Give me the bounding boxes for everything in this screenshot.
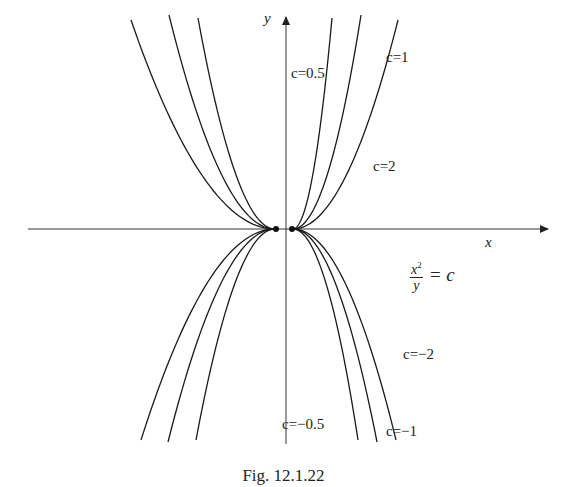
y-axis-label: y <box>264 10 271 27</box>
eq-rhs: = c <box>429 264 455 286</box>
annotation-c-minus-0-5: c=−0.5 <box>282 416 324 433</box>
vertex-left-dot <box>273 226 279 232</box>
equation: x2 y = c <box>410 258 455 293</box>
parabola-curve <box>168 229 275 442</box>
eq-exponent: 2 <box>417 260 422 270</box>
x-axis-label: x <box>485 234 492 251</box>
annotation-c-2: c=2 <box>373 158 396 175</box>
annotation-c-minus-1: c=−1 <box>386 423 417 440</box>
parabola-curve <box>196 229 275 440</box>
parabola-curve <box>131 20 275 229</box>
annotation-c-minus-2: c=−2 <box>403 346 434 363</box>
parabola-curve <box>293 20 398 229</box>
eq-denominator: y <box>413 278 419 293</box>
parabola-curve <box>141 229 275 440</box>
parabola-curve <box>293 229 396 440</box>
chart-canvas <box>0 0 567 487</box>
vertex-right-dot <box>289 226 295 232</box>
annotation-c-1: c=1 <box>386 49 409 66</box>
annotation-c-0-5: c=0.5 <box>291 65 325 82</box>
parabola-curve <box>293 18 332 229</box>
parabola-curve <box>293 15 361 229</box>
figure-caption: Fig. 12.1.22 <box>0 466 567 486</box>
parabola-curve <box>169 15 275 229</box>
parabola-curve <box>198 18 275 229</box>
parabola-curve <box>293 229 377 442</box>
